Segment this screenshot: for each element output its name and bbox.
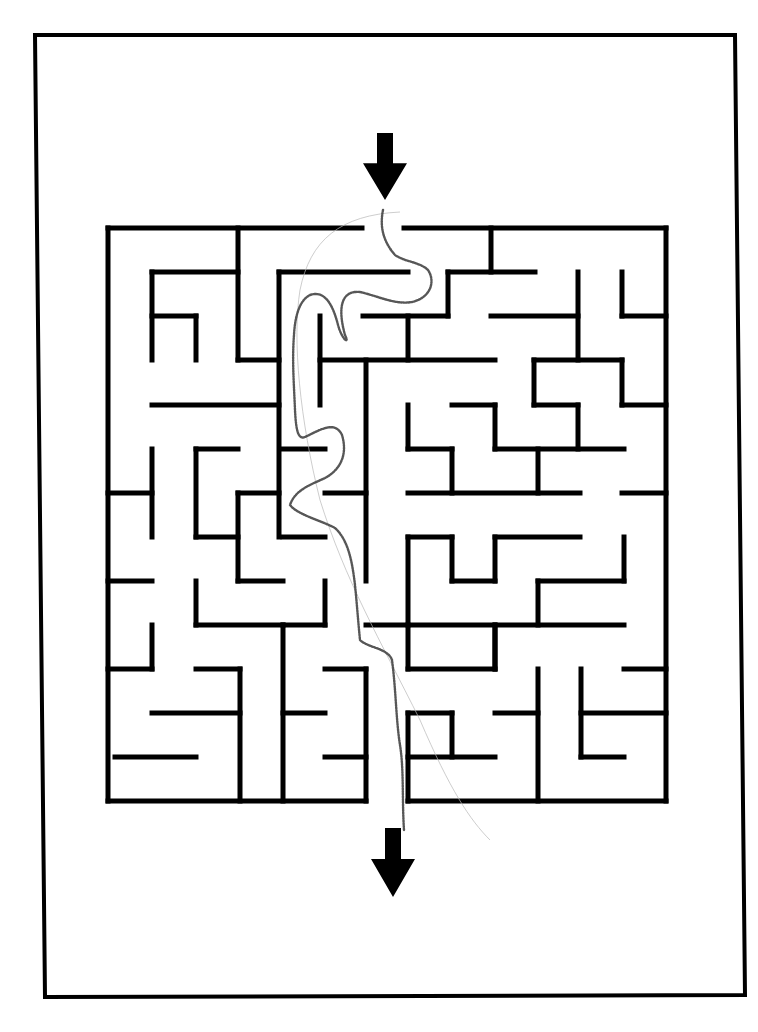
entrance-arrow-icon <box>363 133 407 200</box>
exit-arrow-icon <box>371 828 415 897</box>
faint-pencil-line <box>297 212 490 840</box>
maze-walls <box>108 228 666 801</box>
maze-worksheet <box>0 0 758 1032</box>
